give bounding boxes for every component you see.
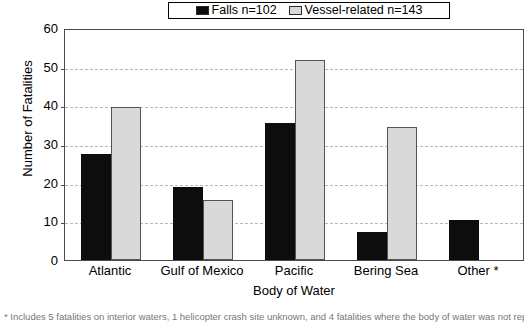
x-axis-tick-label: Gulf of Mexico — [156, 263, 248, 278]
x-axis-tick-label: Pacific — [248, 263, 340, 278]
legend-item-falls: Falls n=102 — [196, 4, 277, 17]
bar-vessel-related — [387, 127, 417, 260]
x-axis-tick-label: Atlantic — [64, 263, 156, 278]
bar-group — [341, 30, 433, 260]
bar-group — [157, 30, 249, 260]
legend-swatch-falls — [196, 6, 209, 15]
bar-falls — [357, 232, 387, 260]
x-axis-tick-labels: AtlanticGulf of MexicoPacificBering SeaO… — [64, 263, 524, 281]
bar-group — [433, 30, 525, 260]
legend-swatch-vessel-related — [289, 6, 302, 15]
legend-item-vessel-related: Vessel-related n=143 — [289, 4, 423, 17]
bar-group — [249, 30, 341, 260]
bar-vessel-related — [295, 60, 325, 260]
x-axis-tick-label: Bering Sea — [340, 263, 432, 278]
bar-vessel-related — [203, 200, 233, 260]
bar-group — [65, 30, 157, 260]
y-axis-title: Number of Fatalities — [20, 24, 35, 214]
bar-falls — [173, 187, 203, 260]
y-axis-tick-label: 10 — [0, 215, 58, 228]
bar-falls — [265, 123, 295, 260]
bar-falls — [81, 154, 111, 260]
legend-label-vessel-related: Vessel-related n=143 — [305, 4, 423, 17]
x-axis-tick-label: Other * — [432, 263, 524, 278]
legend-label-falls: Falls n=102 — [212, 4, 277, 17]
x-axis-title: Body of Water — [64, 283, 524, 298]
bar-falls — [449, 220, 479, 260]
chart-legend: Falls n=102 Vessel-related n=143 — [168, 2, 450, 19]
chart-footnote: * Includes 5 fatalities on interior wate… — [4, 311, 524, 322]
plot-area — [64, 29, 524, 261]
bar-vessel-related — [111, 107, 141, 260]
y-axis-tick-label: 0 — [0, 254, 58, 267]
